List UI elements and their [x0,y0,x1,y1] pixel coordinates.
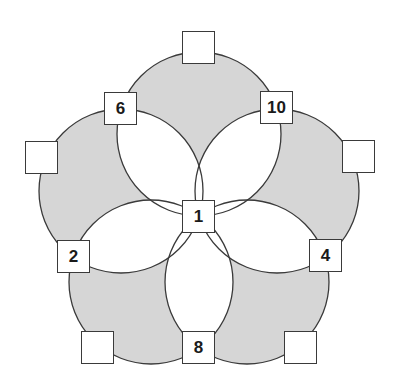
box-right-blank[interactable] [342,140,375,173]
box-bottom-right-blank[interactable] [284,331,317,364]
box-bottom-left-blank[interactable] [81,331,114,364]
box-center[interactable]: 1 [182,200,215,233]
box-top-blank[interactable] [182,31,215,64]
box-2[interactable]: 2 [57,240,90,273]
box-8[interactable]: 8 [182,331,215,364]
box-left-blank[interactable] [25,141,58,174]
box-6[interactable]: 6 [104,92,137,125]
box-10[interactable]: 10 [260,91,293,124]
box-4[interactable]: 4 [309,239,342,272]
